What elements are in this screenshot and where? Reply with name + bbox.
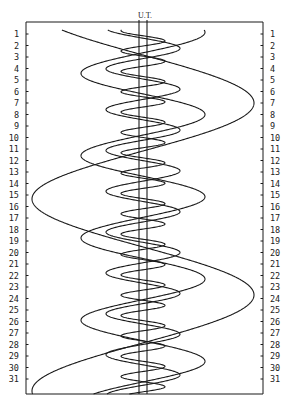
day-label-left: 29 [9,351,19,361]
day-label-right: 22 [270,271,280,281]
day-label-right: 11 [270,144,280,154]
day-label-right: 27 [270,328,280,338]
day-label-left: 12 [9,156,19,166]
day-label-right: 19 [270,236,280,246]
day-label-right: 9 [270,121,275,131]
day-label-left: 11 [9,144,19,154]
day-label-left: 2 [14,41,19,51]
day-label-left: 10 [9,133,19,143]
day-label-left: 4 [14,64,19,74]
day-label-left: 18 [9,225,19,235]
day-label-right: 8 [270,110,275,120]
day-label-left: 27 [9,328,19,338]
day-label-right: 5 [270,75,275,85]
day-label-right: 3 [270,52,275,62]
day-label-right: 16 [270,202,280,212]
day-label-right: 14 [270,179,280,189]
orbit-curve-callisto [32,30,254,394]
day-label-left: 24 [9,294,19,304]
day-label-right: 26 [270,317,280,327]
day-label-right: 31 [270,374,280,384]
day-label-left: 13 [9,167,19,177]
day-label-right: 29 [270,351,280,361]
day-label-right: 10 [270,133,280,143]
day-label-left: 6 [14,87,19,97]
day-label-right: 24 [270,294,280,304]
day-label-left: 7 [14,98,19,108]
day-label-left: 19 [9,236,19,246]
day-label-right: 20 [270,248,280,258]
day-label-right: 1 [270,29,275,39]
day-label-right: 7 [270,98,275,108]
day-label-left: 16 [9,202,19,212]
day-label-left: 25 [9,305,19,315]
day-label-right: 2 [270,41,275,51]
satellite-diagram: U.T. 12345678910111213141516171819202122… [0,0,288,408]
day-label-right: 15 [270,190,280,200]
day-label-right: 4 [270,64,275,74]
day-label-left: 23 [9,282,19,292]
day-label-right: 30 [270,363,280,373]
day-label-left: 28 [9,340,19,350]
orbit-curve-io [121,30,165,394]
day-label-right: 25 [270,305,280,315]
diagram-frame [26,20,263,394]
day-label-right: 18 [270,225,280,235]
day-label-left: 26 [9,317,19,327]
day-label-left: 3 [14,52,19,62]
orbit-curve-ganymede [81,30,205,394]
ut-header-label: U.T. [138,11,152,20]
day-label-left: 9 [14,121,19,131]
day-label-left: 15 [9,190,19,200]
day-label-left: 8 [14,110,19,120]
satellite-curves [32,30,254,394]
day-label-right: 28 [270,340,280,350]
day-label-left: 22 [9,271,19,281]
day-label-right: 12 [270,156,280,166]
day-label-left: 21 [9,259,19,269]
day-label-right: 21 [270,259,280,269]
day-label-right: 17 [270,213,280,223]
day-label-left: 20 [9,248,19,258]
day-label-left: 1 [14,29,19,39]
day-label-left: 30 [9,363,19,373]
day-label-left: 31 [9,374,19,384]
day-label-right: 13 [270,167,280,177]
day-label-right: 6 [270,87,275,97]
day-label-left: 14 [9,179,19,189]
day-label-left: 5 [14,75,19,85]
day-label-left: 17 [9,213,19,223]
day-label-right: 23 [270,282,280,292]
